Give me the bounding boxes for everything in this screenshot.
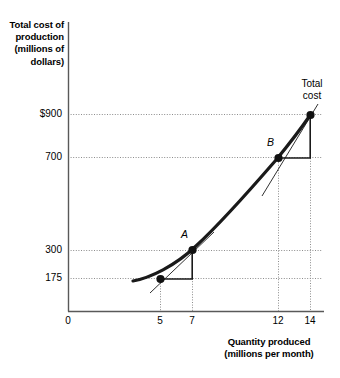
chart-plot-area	[0, 0, 340, 378]
data-point-b-12-700	[274, 154, 282, 162]
data-point-a-7-300	[188, 246, 196, 254]
data-point-5-175	[156, 275, 164, 283]
horizontal-gridlines	[68, 115, 322, 279]
data-point-14-900	[306, 111, 314, 119]
cost-curve-chart: Total cost of production (millions of do…	[0, 0, 340, 378]
total-cost-curve	[133, 114, 311, 281]
tangent-line-a	[150, 232, 214, 293]
